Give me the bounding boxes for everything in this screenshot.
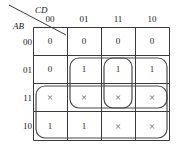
cell-r0c0: 0 [33, 27, 67, 55]
cell-r3c3: × [135, 112, 169, 140]
column-header-1: 01 [67, 14, 101, 24]
column-header-2: 11 [101, 14, 135, 24]
karnaugh-map: CD AB 00 01 11 10 00 01 11 10 0 0 [0, 0, 176, 150]
cell-r3c0: 1 [33, 112, 67, 140]
row-header-0: 00 [8, 37, 32, 47]
row-header-3: 10 [8, 121, 32, 131]
row-header-2: 11 [8, 93, 32, 103]
cell-r0c1: 0 [67, 27, 101, 55]
column-header-0: 00 [33, 14, 67, 24]
cell-r1c1: 1 [67, 55, 101, 83]
column-header-3: 10 [135, 14, 169, 24]
cell-r0c3: 0 [135, 27, 169, 55]
cell-r1c0: 0 [33, 55, 67, 83]
cell-r1c3: 1 [135, 55, 169, 83]
cell-r0c2: 0 [101, 27, 135, 55]
row-variable-label: AB [13, 21, 24, 31]
cell-r3c1: 1 [67, 112, 101, 140]
row-header-1: 01 [8, 65, 32, 75]
cell-r2c2: × [101, 83, 135, 111]
cell-r3c2: × [101, 112, 135, 140]
cell-r2c1: × [67, 83, 101, 111]
cell-r2c3: × [135, 83, 169, 111]
cell-r2c0: × [33, 83, 67, 111]
cell-r1c2: 1 [101, 55, 135, 83]
kmap-grid: 0 0 0 0 0 1 1 1 × × × × 1 1 × × [33, 27, 170, 141]
